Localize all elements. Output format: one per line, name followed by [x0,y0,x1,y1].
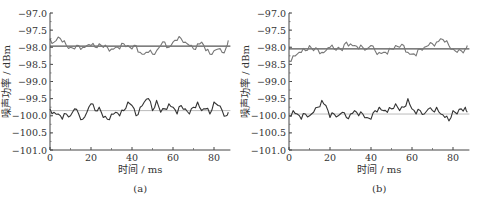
y-tick-label: −98.5 [18,59,47,70]
x-tick-label: 80 [208,152,220,163]
y-tick-label: −99.0 [257,76,286,87]
y-tick-label: −101.0 [12,145,47,156]
y-tick-label: −99.5 [18,93,47,104]
x-tick-label: 20 [324,152,336,163]
y-tick-label: −101.0 [251,145,286,156]
y-axis-label: 噪声功率 / dBm [239,45,251,118]
chart-svg-b: −97.0−97.5−98.0−98.5−99.0−99.5−100.0−100… [239,0,478,200]
x-tick-label: 40 [126,152,138,163]
y-tick-label: −98.0 [257,42,286,53]
data-series-line [50,99,228,120]
data-series-line [50,37,228,55]
x-axis-label: 时间 / ms [118,163,162,175]
y-tick-label: −98.0 [18,42,47,53]
x-tick-label: 0 [286,152,292,163]
panel-caption: (a) [133,183,147,194]
y-tick-label: −100.0 [251,110,286,121]
y-tick-label: −97.5 [18,25,47,36]
x-axis-label: 时间 / ms [357,163,401,175]
y-tick-label: −99.0 [18,76,47,87]
x-tick-label: 20 [85,152,97,163]
y-tick-label: −100.0 [12,110,47,121]
panel-caption: (b) [372,183,386,194]
chart-svg-a: −97.0−97.5−98.0−98.5−99.0−99.5−100.0−100… [0,0,239,200]
y-tick-label: −100.5 [12,127,47,138]
x-tick-label: 60 [167,152,179,163]
y-tick-label: −100.5 [251,127,286,138]
y-tick-label: −99.5 [257,93,286,104]
chart-panel-b: −97.0−97.5−98.0−98.5−99.0−99.5−100.0−100… [239,0,478,200]
x-tick-label: 80 [447,152,459,163]
chart-panel-a: −97.0−97.5−98.0−98.5−99.0−99.5−100.0−100… [0,0,239,200]
y-tick-label: −97.5 [257,25,286,36]
x-tick-label: 40 [365,152,377,163]
y-tick-label: −98.5 [257,59,286,70]
y-axis-label: 噪声功率 / dBm [0,45,12,118]
data-series-line [289,39,467,62]
x-tick-label: 60 [406,152,418,163]
x-tick-label: 0 [47,152,53,163]
data-series-line [289,99,467,121]
y-tick-label: −97.0 [257,8,286,19]
y-tick-label: −97.0 [18,8,47,19]
